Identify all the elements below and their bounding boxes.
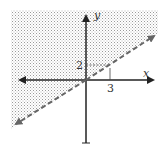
y-axis-label: y	[93, 9, 101, 22]
y-tick-label-2: 2	[76, 59, 83, 72]
x-tick-label-3: 3	[107, 82, 114, 95]
shaded-region	[11, 10, 158, 129]
inequality-graph: y x 2 3	[0, 0, 167, 145]
x-axis-label: x	[143, 67, 150, 80]
